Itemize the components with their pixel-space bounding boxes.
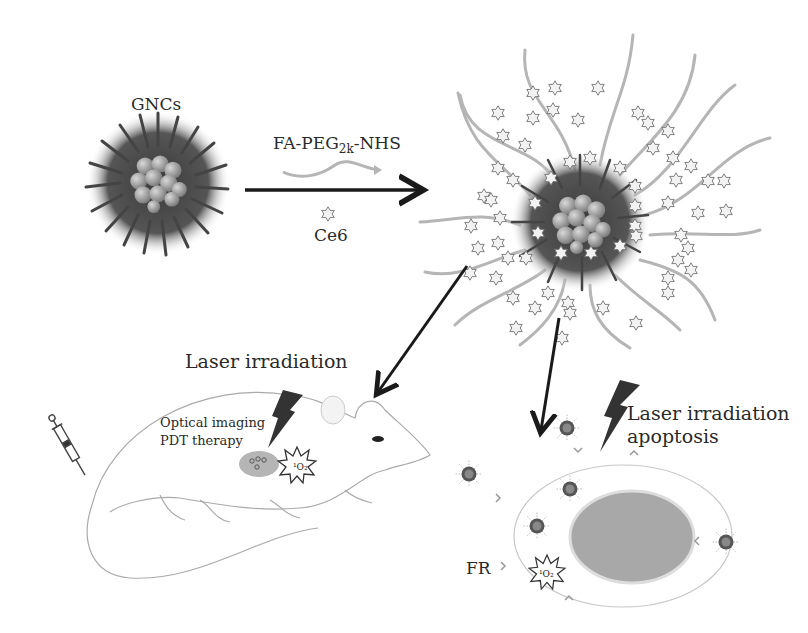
svg-text:¹O₂: ¹O₂ — [293, 462, 308, 472]
mouse-eye — [372, 436, 384, 442]
laser-irradiation-mouse-label: Laser irradiation — [185, 350, 348, 372]
fr-label: FR — [466, 558, 491, 578]
gncs-label: GNCs — [131, 94, 181, 114]
reagent-prefix: FA-PEG — [273, 133, 339, 153]
syringe-icon — [45, 412, 90, 478]
arrow-to-cell — [541, 318, 559, 430]
gncs-nanocluster — [86, 111, 230, 255]
nucleus — [570, 491, 694, 583]
reagent-suffix: -NHS — [354, 133, 401, 153]
nanoparticle-icon — [456, 461, 483, 488]
lightning-icon — [268, 390, 303, 448]
ce6-star-icon — [322, 207, 334, 221]
pdt-therapy-label: PDT therapy — [160, 433, 243, 448]
tumor — [239, 451, 279, 477]
laser-irradiation-cell-label: Laser irradiation — [627, 402, 790, 424]
cancer-cell — [514, 465, 732, 607]
arrow-to-mouse — [378, 266, 467, 392]
diagram-canvas: ¹O₂ ¹O₂ — [0, 0, 808, 633]
optical-imaging-label: Optical imaging — [160, 415, 265, 430]
functionalized-nanocluster — [420, 35, 770, 348]
mouse-ear — [321, 396, 345, 424]
peg-chain-icon — [283, 162, 378, 177]
reagent-subscript: 2k — [339, 142, 354, 156]
svg-text:¹O₂: ¹O₂ — [539, 569, 554, 579]
reagent-label: FA-PEG2k-NHS — [273, 133, 401, 156]
ce6-label: Ce6 — [314, 225, 348, 245]
nanoparticle-icon — [554, 415, 581, 442]
apoptosis-label: apoptosis — [627, 425, 719, 447]
